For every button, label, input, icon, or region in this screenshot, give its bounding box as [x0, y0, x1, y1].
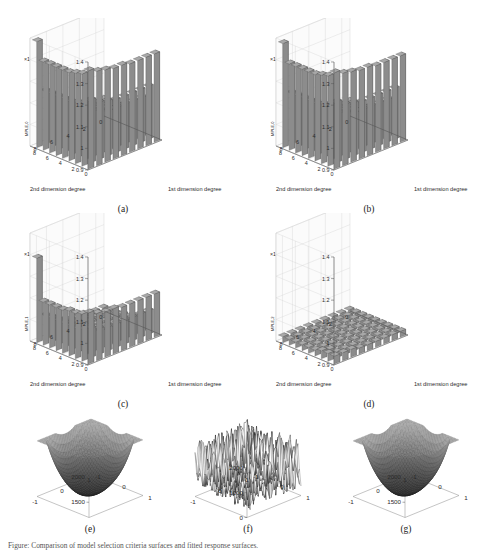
- svg-text:1: 1: [306, 494, 310, 501]
- svg-text:2: 2: [318, 166, 321, 172]
- svg-text:1: 1: [327, 145, 330, 151]
- panel-c: ×105 MPLE,1 0.911.11.21.31.40246886420 2…: [0, 213, 246, 418]
- svg-text:6: 6: [292, 350, 295, 356]
- panel-d: ×105 MPLE,2 0.911.11.21.31.40246886420 2…: [246, 213, 492, 418]
- svg-text:2000: 2000: [387, 473, 401, 480]
- svg-text:6: 6: [50, 334, 53, 340]
- panel-g: 15002000-101-101 (g): [324, 400, 488, 540]
- svg-text:1.2: 1.2: [76, 102, 84, 108]
- svg-text:1000: 1000: [229, 489, 243, 496]
- svg-text:6: 6: [46, 350, 49, 356]
- svg-text:4: 4: [66, 133, 69, 139]
- svg-text:1500: 1500: [71, 498, 85, 505]
- panel-d-canvas: 0.911.11.21.31.40246886420: [246, 213, 492, 398]
- panel-a: ×105 MPLE,0 0.911.11.21.31.40246886420 2…: [0, 18, 246, 223]
- svg-text:0: 0: [218, 487, 222, 494]
- svg-text:0.9: 0.9: [322, 362, 330, 368]
- svg-text:0: 0: [99, 119, 102, 125]
- svg-text:0: 0: [122, 483, 126, 490]
- svg-text:6: 6: [50, 139, 53, 145]
- svg-text:1.3: 1.3: [76, 81, 84, 87]
- svg-text:0: 0: [345, 314, 348, 320]
- svg-text:-1: -1: [190, 498, 196, 505]
- svg-text:1.2: 1.2: [322, 297, 330, 303]
- panel-b-xlabel: 1st dimension degree: [414, 186, 468, 192]
- svg-text:1: 1: [464, 494, 468, 501]
- svg-text:4: 4: [305, 355, 308, 361]
- panel-c-xlabel: 1st dimension degree: [168, 381, 222, 387]
- panel-c-canvas: 0.911.11.21.31.40246886420: [0, 213, 246, 398]
- svg-text:0: 0: [85, 171, 88, 177]
- svg-text:4: 4: [59, 355, 62, 361]
- panel-a-ylabel: 2nd dimension degree: [30, 186, 85, 192]
- panel-b-ylabel: 2nd dimension degree: [276, 186, 331, 192]
- svg-text:6: 6: [296, 139, 299, 145]
- panel-d-plot: ×105 MPLE,2 0.911.11.21.31.40246886420 2…: [246, 213, 492, 398]
- svg-text:4: 4: [312, 133, 315, 139]
- svg-text:8: 8: [34, 341, 37, 347]
- svg-text:1.3: 1.3: [76, 276, 84, 282]
- svg-text:0.9: 0.9: [76, 362, 84, 368]
- svg-text:1.3: 1.3: [322, 81, 330, 87]
- svg-text:4: 4: [305, 160, 308, 166]
- svg-text:6: 6: [46, 155, 49, 161]
- panel-f-sublabel: (f): [166, 524, 330, 534]
- panel-b-canvas: 0.911.11.21.31.40246886420: [246, 18, 492, 203]
- panel-g-canvas: 15002000-101-101: [324, 400, 488, 524]
- svg-text:0: 0: [85, 366, 88, 372]
- panel-g-sublabel: (g): [324, 524, 488, 534]
- svg-text:1: 1: [327, 340, 330, 346]
- svg-text:-1: -1: [32, 498, 38, 505]
- panel-c-plot: ×105 MPLE,1 0.911.11.21.31.40246886420 2…: [0, 213, 246, 398]
- svg-text:0: 0: [331, 171, 334, 177]
- svg-text:0: 0: [438, 483, 442, 490]
- svg-text:8: 8: [280, 341, 283, 347]
- svg-text:1.3: 1.3: [322, 276, 330, 282]
- svg-text:1.4: 1.4: [76, 254, 84, 260]
- panel-c-ylabel: 2nd dimension degree: [30, 381, 85, 387]
- panel-f: 010002000-101-101 (f): [166, 400, 330, 540]
- panel-d-xlabel: 1st dimension degree: [414, 381, 468, 387]
- svg-text:1: 1: [245, 476, 249, 483]
- panel-a-xlabel: 1st dimension degree: [168, 186, 222, 192]
- figure-root: ×105 MPLE,0 0.911.11.21.31.40246886420 2…: [0, 0, 492, 550]
- svg-text:-1: -1: [348, 498, 354, 505]
- svg-text:0: 0: [240, 514, 244, 521]
- svg-text:2: 2: [329, 126, 332, 132]
- svg-text:8: 8: [34, 146, 37, 152]
- svg-text:2000: 2000: [71, 473, 85, 480]
- svg-text:0: 0: [376, 487, 380, 494]
- svg-text:0: 0: [331, 366, 334, 372]
- svg-text:4: 4: [59, 160, 62, 166]
- svg-text:1: 1: [403, 476, 407, 483]
- panel-b: ×105 MPLE,0 0.911.11.21.31.40246886420 2…: [246, 18, 492, 223]
- svg-text:1.4: 1.4: [76, 59, 84, 65]
- panel-a-plot: ×105 MPLE,0 0.911.11.21.31.40246886420 2…: [0, 18, 246, 203]
- svg-text:2: 2: [318, 361, 321, 367]
- svg-text:6: 6: [296, 334, 299, 340]
- svg-text:2: 2: [83, 321, 86, 327]
- panel-f-canvas: 010002000-101-101: [166, 400, 330, 524]
- panel-b-plot: ×105 MPLE,0 0.911.11.21.31.40246886420 2…: [246, 18, 492, 203]
- svg-text:2: 2: [329, 321, 332, 327]
- panel-d-ylabel: 2nd dimension degree: [276, 381, 331, 387]
- svg-text:4: 4: [66, 328, 69, 334]
- svg-text:1.4: 1.4: [322, 59, 330, 65]
- svg-text:8: 8: [280, 146, 283, 152]
- svg-text:0.9: 0.9: [76, 167, 84, 173]
- svg-text:-1: -1: [95, 473, 101, 480]
- svg-text:2: 2: [72, 166, 75, 172]
- panel-e: 15002000-101-101 (e): [8, 400, 172, 540]
- svg-text:0.9: 0.9: [322, 167, 330, 173]
- panel-a-canvas: 0.911.11.21.31.40246886420: [0, 18, 246, 203]
- svg-text:-1: -1: [253, 473, 259, 480]
- svg-text:1.2: 1.2: [76, 297, 84, 303]
- svg-text:1: 1: [81, 340, 84, 346]
- svg-text:1: 1: [81, 145, 84, 151]
- svg-text:-1: -1: [411, 473, 417, 480]
- svg-text:2: 2: [83, 126, 86, 132]
- svg-text:2000: 2000: [229, 464, 243, 471]
- svg-text:1500: 1500: [387, 498, 401, 505]
- svg-text:0: 0: [60, 487, 64, 494]
- panel-e-sublabel: (e): [8, 524, 172, 534]
